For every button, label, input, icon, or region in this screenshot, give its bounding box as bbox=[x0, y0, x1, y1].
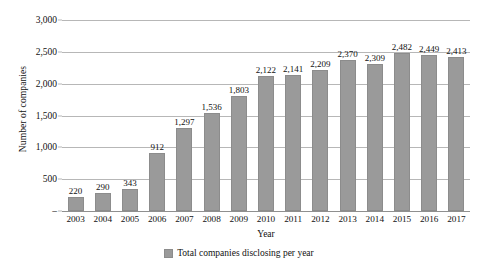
y-axis-tick-label: 3,000 bbox=[36, 15, 57, 25]
bar-group[interactable]: 2,413 bbox=[443, 20, 470, 211]
legend-label: Total companies disclosing per year bbox=[177, 248, 314, 258]
legend-swatch-icon bbox=[164, 249, 173, 258]
bar[interactable] bbox=[448, 57, 464, 211]
bar-group[interactable]: 2,449 bbox=[416, 20, 443, 211]
bar-group[interactable]: 220 bbox=[62, 20, 89, 211]
bar-value-label: 2,122 bbox=[256, 65, 276, 75]
bar[interactable] bbox=[122, 189, 138, 211]
bar[interactable] bbox=[176, 128, 192, 211]
bar-group[interactable]: 2,370 bbox=[334, 20, 361, 211]
x-axis-tick-label: 2012 bbox=[311, 214, 329, 224]
bar-group[interactable]: 1,803 bbox=[225, 20, 252, 211]
bar[interactable] bbox=[231, 96, 247, 211]
bar[interactable] bbox=[149, 153, 165, 211]
bar-value-label: 290 bbox=[96, 182, 110, 192]
y-axis-tick-label: 1,000 bbox=[36, 142, 57, 152]
x-axis-tick-label: 2017 bbox=[447, 214, 465, 224]
bar-value-label: 2,449 bbox=[419, 44, 439, 54]
bar-value-label: 912 bbox=[150, 142, 164, 152]
bar-value-label: 343 bbox=[123, 178, 137, 188]
bar-group[interactable]: 1,536 bbox=[198, 20, 225, 211]
x-axis-tick-label: 2003 bbox=[66, 214, 84, 224]
bar[interactable] bbox=[68, 197, 84, 211]
x-axis-tick-label: 2011 bbox=[284, 214, 302, 224]
x-axis-tick-label: 2007 bbox=[175, 214, 193, 224]
y-axis-tick-label: – bbox=[52, 206, 57, 216]
x-axis-tick-label: 2009 bbox=[230, 214, 248, 224]
y-axis-title: Number of companies bbox=[18, 39, 28, 179]
bar[interactable] bbox=[421, 55, 437, 211]
bar[interactable] bbox=[204, 113, 220, 211]
bar-group[interactable]: 2,482 bbox=[388, 20, 415, 211]
bar-value-label: 1,297 bbox=[174, 117, 194, 127]
bar-group[interactable]: 2,309 bbox=[361, 20, 388, 211]
bar-value-label: 1,536 bbox=[201, 102, 221, 112]
bar-group[interactable]: 912 bbox=[144, 20, 171, 211]
chart-legend: Total companies disclosing per year bbox=[0, 248, 478, 258]
bar-group[interactable]: 343 bbox=[116, 20, 143, 211]
x-axis-tick-label: 2005 bbox=[121, 214, 139, 224]
x-axis-title: Year bbox=[62, 229, 470, 239]
x-axis-tick-label: 2008 bbox=[202, 214, 220, 224]
x-axis-tick-labels: 2003200420052006200720082009201020112012… bbox=[62, 214, 470, 228]
bar[interactable] bbox=[367, 64, 383, 211]
bar-value-label: 220 bbox=[69, 186, 83, 196]
bar-group[interactable]: 2,209 bbox=[307, 20, 334, 211]
bar-group[interactable]: 2,122 bbox=[252, 20, 279, 211]
plot-area: –5001,0001,5002,0002,5003,000 2202903439… bbox=[62, 20, 470, 211]
x-axis-tick-label: 2015 bbox=[393, 214, 411, 224]
x-axis-tick-label: 2010 bbox=[257, 214, 275, 224]
bar[interactable] bbox=[394, 53, 410, 211]
x-axis-tick-label: 2016 bbox=[420, 214, 438, 224]
bar[interactable] bbox=[258, 76, 274, 211]
bar-chart: Number of companies –5001,0001,5002,0002… bbox=[0, 0, 478, 270]
y-axis-tick-label: 2,500 bbox=[36, 47, 57, 57]
bar-value-label: 2,309 bbox=[365, 53, 385, 63]
x-axis-tick-label: 2014 bbox=[366, 214, 384, 224]
bar-group[interactable]: 290 bbox=[89, 20, 116, 211]
y-axis-tick-label: 1,500 bbox=[36, 111, 57, 121]
bar[interactable] bbox=[312, 70, 328, 211]
bar-group[interactable]: 2,141 bbox=[280, 20, 307, 211]
bar-value-label: 2,209 bbox=[310, 59, 330, 69]
x-axis-tick-label: 2004 bbox=[94, 214, 112, 224]
bar-group[interactable]: 1,297 bbox=[171, 20, 198, 211]
bar-value-label: 1,803 bbox=[229, 85, 249, 95]
bar-value-label: 2,413 bbox=[446, 46, 466, 56]
bar[interactable] bbox=[95, 193, 111, 211]
bar-value-label: 2,141 bbox=[283, 64, 303, 74]
bar-value-label: 2,370 bbox=[337, 49, 357, 59]
bar[interactable] bbox=[340, 60, 356, 211]
bar[interactable] bbox=[285, 75, 301, 211]
axis-baseline bbox=[62, 211, 470, 212]
bars-layer: 2202903439121,2971,5361,8032,1222,1412,2… bbox=[62, 20, 470, 211]
x-axis-tick-label: 2013 bbox=[338, 214, 356, 224]
y-axis-tick-label: 2,000 bbox=[36, 79, 57, 89]
x-axis-tick-label: 2006 bbox=[148, 214, 166, 224]
y-axis-tick-label: 500 bbox=[43, 174, 57, 184]
bar-value-label: 2,482 bbox=[392, 42, 412, 52]
